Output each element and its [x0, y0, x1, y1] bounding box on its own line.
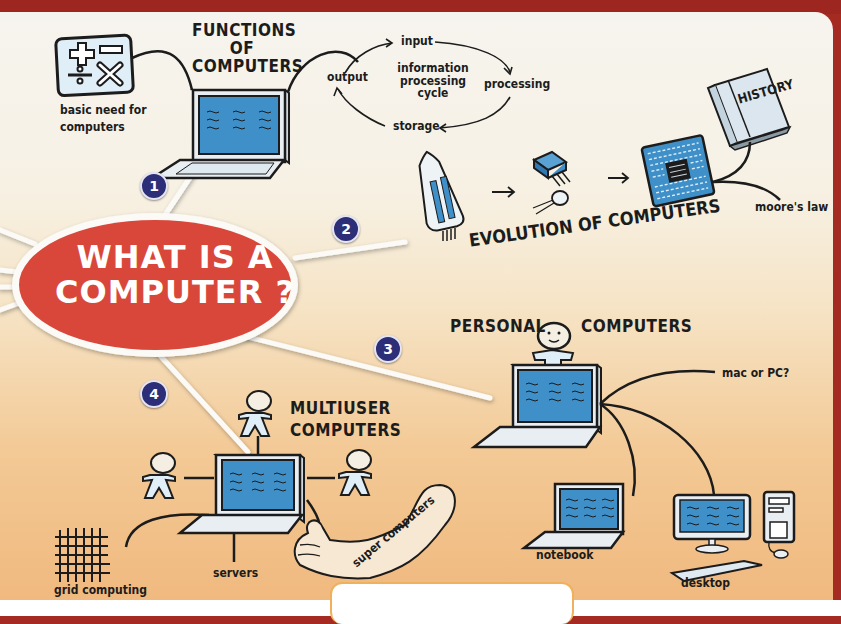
label-moores-law: moore's law	[755, 201, 828, 214]
branch-number-badge-1: 1	[140, 172, 168, 200]
arrow-storage-output	[338, 89, 385, 126]
arrow-processing-storage	[440, 97, 510, 128]
grid-computing-icon	[55, 528, 110, 582]
vacuum-tube-icon	[412, 147, 465, 241]
branch-number-badge-2: 2	[332, 215, 360, 243]
arrow-right-icon	[492, 187, 514, 197]
laptop-icon	[474, 365, 601, 447]
branch-number-badge-4: 4	[140, 380, 168, 408]
cycle-step-storage: storage	[393, 120, 440, 133]
math-operators-icon	[56, 35, 134, 96]
cycle-step-processing: processing	[484, 78, 550, 91]
label-servers: servers	[213, 567, 258, 580]
branch-title-personal-2: COMPUTERS	[581, 318, 692, 336]
bottom-tab	[330, 582, 574, 624]
cycle-step-output: output	[327, 71, 368, 84]
connector-desktop	[600, 404, 714, 495]
connector-notebook	[600, 404, 635, 496]
cycle-title: information processing cycle	[388, 62, 478, 100]
multiuser-laptop-icon	[180, 455, 304, 533]
central-topic-line-1: WHAT IS A	[30, 240, 320, 275]
central-topic: WHAT IS A COMPUTER ?	[30, 240, 320, 310]
branch-title-functions: FUNCTIONS OF COMPUTERS	[192, 22, 292, 76]
label-mac-or-pc: mac or PC?	[722, 367, 789, 380]
personal-connectors	[600, 371, 715, 496]
branch-title-personal-1: PERSONAL	[450, 318, 546, 336]
connector-basic-need	[132, 51, 192, 90]
user-figure-top	[239, 391, 271, 436]
label-basic-need: basic need for computers	[60, 104, 147, 133]
desktop-icon	[672, 492, 794, 581]
spoke-4	[155, 350, 248, 452]
connector-mac-pc	[600, 371, 715, 404]
spoke-3	[240, 335, 490, 398]
branch-number-badge-3: 3	[374, 335, 402, 363]
laptop-icon	[152, 90, 289, 178]
cycle-step-input: input	[401, 35, 433, 48]
branch-title-multiuser: MULTIUSER COMPUTERS	[290, 400, 401, 440]
label-grid-computing: grid computing	[54, 584, 147, 597]
user-figure-right	[339, 450, 371, 495]
notebook-icon	[524, 484, 623, 548]
label-notebook: notebook	[536, 549, 593, 562]
label-desktop: desktop	[681, 577, 730, 590]
transistor-icon	[533, 152, 570, 214]
user-figure-left	[143, 453, 175, 498]
central-topic-line-2: COMPUTER ?	[30, 275, 320, 310]
arrow-right-icon	[608, 173, 628, 183]
connector-moores-law	[713, 182, 780, 200]
